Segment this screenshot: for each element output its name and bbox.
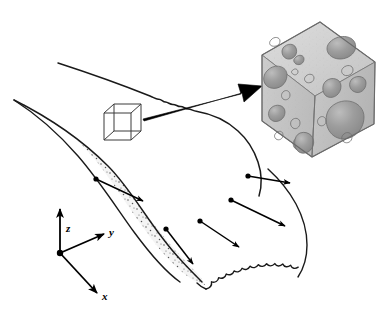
flow-arrow-5 — [245, 173, 290, 183]
axis-y — [60, 234, 104, 253]
body-top-ridge — [58, 63, 261, 196]
magnification-arrow — [143, 84, 262, 121]
diagram-svg: z y x — [0, 0, 390, 313]
axis-label-z: z — [65, 222, 71, 234]
body-right-flank — [268, 169, 307, 277]
axis-origin — [57, 250, 63, 256]
coordinate-axes — [57, 209, 104, 293]
axis-label-y: y — [107, 226, 114, 238]
axis-x — [60, 253, 97, 293]
flow-arrow-4 — [228, 197, 285, 226]
axis-label-x: x — [101, 290, 108, 302]
cube-edge-pore — [295, 132, 314, 153]
figure-canvas: z y x — [0, 0, 390, 313]
microstructure-cube — [262, 22, 375, 157]
flow-arrow-3 — [197, 218, 239, 247]
body-scalloped-front — [206, 264, 298, 289]
wireframe-rev-cube — [104, 104, 141, 140]
